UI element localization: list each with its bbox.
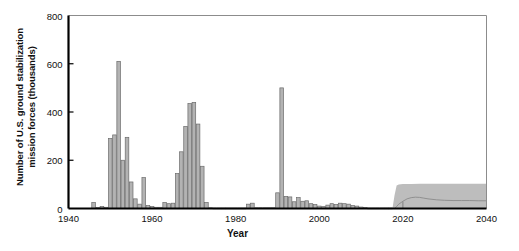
x-axis-tick-label: 1940 [49,213,89,224]
x-axis-tick-label: 1980 [216,213,256,224]
x-axis-title-text: Year [227,228,248,239]
x-axis-tick-label: 2000 [299,213,339,224]
chart-figure: Number of U.S. ground stabilization miss… [0,0,519,251]
x-axis-tick-label: 2040 [467,213,507,224]
y-axis-tick-label: 200 [33,155,63,166]
x-axis-title: Year [0,228,519,239]
y-axis-tick-label: 400 [33,107,63,118]
bar-series [92,61,392,208]
x-axis-tick-label: 1960 [132,213,172,224]
y-axis-title-line1: Number of U.S. ground stabilization [14,7,26,207]
plot-frame [69,16,487,209]
y-axis-tick-label: 800 [33,10,63,21]
projection-band [392,184,486,209]
x-axis-tick-label: 2020 [383,213,423,224]
y-axis-tick-label: 600 [33,58,63,69]
